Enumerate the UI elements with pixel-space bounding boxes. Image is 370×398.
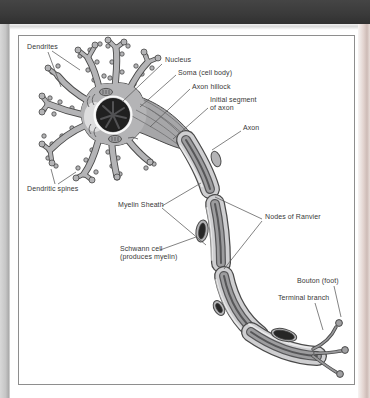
schwann-cell-body: [195, 219, 210, 242]
leader-terminal-branch: [315, 303, 323, 330]
label-dendritic-spines: Dendritic spines: [27, 185, 78, 193]
label-terminal-branch: Terminal branch: [278, 294, 329, 302]
label-dendrites: Dendrites: [27, 43, 58, 51]
scanned-page: Dendrites Nucleus Soma (cell body) Axon …: [0, 0, 370, 398]
axon-shape: [180, 140, 348, 377]
label-nodes-of-ranvier: Nodes of Ranvier: [265, 213, 321, 221]
label-soma: Soma (cell body): [178, 69, 232, 77]
label-initial-segment: Initial segment of axon: [210, 96, 257, 112]
label-axon-hillock: Axon hillock: [192, 83, 231, 91]
myelin-segment-1: [180, 140, 210, 189]
leader-bouton: [334, 286, 341, 317]
bouton-1: [336, 320, 343, 327]
label-axon: Axon: [243, 124, 259, 132]
bouton-3: [337, 371, 344, 378]
leader-myelin-1: [162, 183, 201, 206]
label-bouton: Bouton (foot): [297, 277, 339, 285]
label-myelin-sheath: Myelin Sheath: [118, 201, 164, 209]
leader-dendritic-spines-1: [51, 169, 55, 184]
leader-axon: [212, 131, 241, 150]
bouton-2: [342, 347, 349, 354]
label-nucleus: Nucleus: [165, 56, 191, 64]
myelin-segment-2: [207, 204, 221, 263]
label-schwann-cell: Schwann cell (produces myelin): [120, 245, 177, 261]
